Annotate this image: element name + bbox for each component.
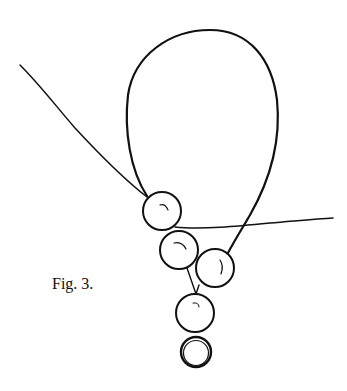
ring <box>181 337 211 367</box>
figure-caption: Fig. 3. <box>52 275 93 293</box>
bead-2 <box>160 231 198 269</box>
connector-thread <box>187 268 196 294</box>
bead-4 <box>176 294 214 332</box>
bead-loop-diagram <box>0 0 347 391</box>
connector-thread <box>196 285 199 294</box>
bead-1 <box>143 192 181 230</box>
thread-end-right <box>175 218 333 228</box>
bead-3 <box>196 249 234 287</box>
